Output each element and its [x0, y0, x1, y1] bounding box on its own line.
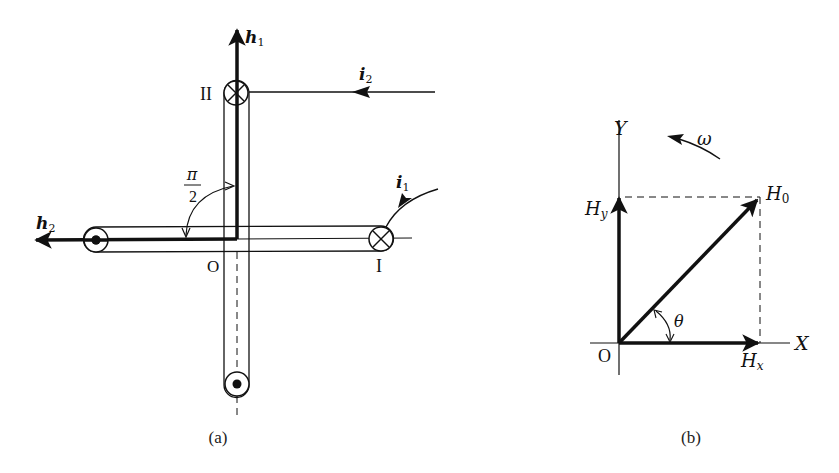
coil-1-cross-icon	[369, 227, 393, 251]
omega-rotation-arrow	[667, 134, 720, 159]
h1-label: h1	[245, 27, 264, 49]
figure-a: h1 h2 i2 i1 II I O π 2 (a)	[36, 27, 438, 447]
coil-1-label: I	[376, 256, 382, 276]
hx-label: Hx	[740, 350, 764, 373]
angle-label-pi-over-2: π 2	[184, 165, 201, 205]
h0-vector	[619, 200, 757, 343]
hy-label: Hy	[584, 198, 608, 221]
caption-b: (b)	[681, 428, 701, 447]
i1-label: i1	[396, 172, 409, 194]
h2-label: h2	[36, 213, 55, 235]
h2-vector	[36, 239, 237, 240]
x-axis-label: X	[793, 332, 810, 354]
caption-a: (a)	[209, 428, 228, 447]
svg-text:π: π	[186, 165, 198, 184]
theta-label: θ	[674, 312, 684, 331]
origin-label-b: O	[598, 346, 611, 366]
i1-current-arrow	[386, 189, 438, 227]
coil-2-dot-icon	[225, 372, 249, 396]
h0-label: H0	[765, 183, 789, 206]
y-axis-label: Y	[614, 117, 629, 139]
i2-current-arrow	[249, 86, 435, 98]
omega-label: ω	[697, 128, 712, 149]
svg-text:2: 2	[189, 188, 197, 205]
coil-1-dot-icon	[84, 228, 108, 252]
figure-b: Y X O H0 Hy Hx ω θ (b)	[584, 117, 810, 447]
coil-2-label: II	[200, 84, 212, 104]
coil-2-cross-icon	[224, 81, 248, 105]
origin-label-a: O	[207, 257, 219, 276]
figure-canvas: h1 h2 i2 i1 II I O π 2 (a)	[0, 0, 839, 473]
i2-label: i2	[359, 64, 372, 86]
theta-arc	[654, 310, 674, 342]
